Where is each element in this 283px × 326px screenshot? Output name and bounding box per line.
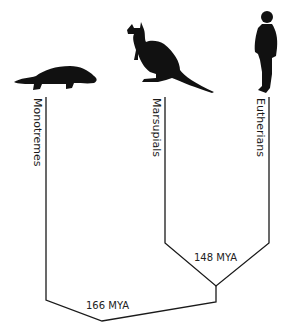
node-label-166-mya: 166 MYA [86,300,129,311]
node-label-148-mya: 148 MYA [194,252,237,263]
platypus-silhouette [14,66,97,90]
human-silhouette [255,11,278,93]
kangaroo-silhouette [127,22,214,93]
monotremes-branch [46,97,216,321]
taxon-label-monotremes: Monotremes [31,98,44,167]
taxon-label-eutherians: Eutherians [254,98,267,157]
taxon-label-marsupials: Marsupials [150,98,163,157]
